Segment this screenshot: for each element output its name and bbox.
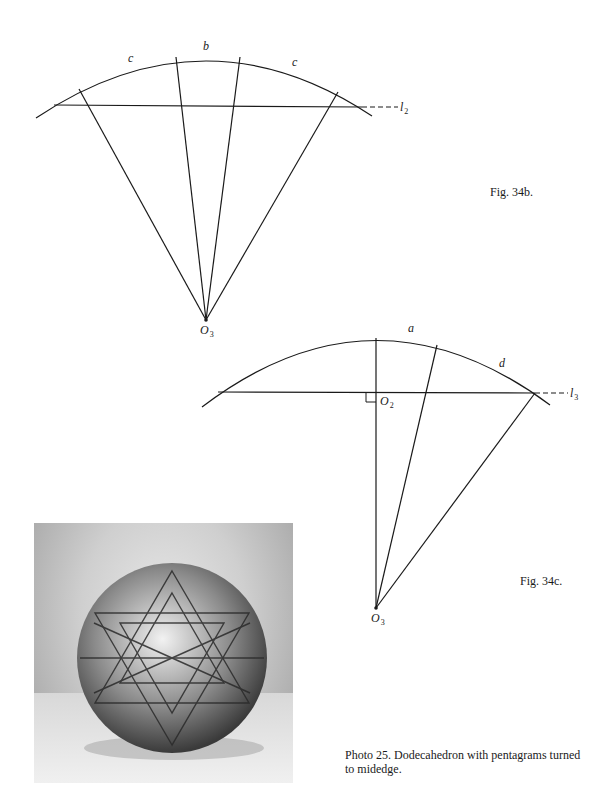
fig34b-arc-label-c-right: c xyxy=(292,56,297,68)
fig34c-arc-label-d: d xyxy=(499,357,505,369)
fig34b-arc-label-b: b xyxy=(203,40,209,52)
fig34b-line-label: l2 xyxy=(400,101,408,116)
fig34b-line-l2 xyxy=(54,105,362,107)
photo-caption-line1: Photo 25. Dodecahedron with pentagrams t… xyxy=(345,748,580,762)
fig34c-arc-label-a: a xyxy=(408,322,414,334)
fig34c-foot-label: O2 xyxy=(380,395,394,410)
photo-caption-line2: to midedge. xyxy=(345,762,402,776)
fig34c-line-label: l3 xyxy=(570,387,578,402)
fig34b-caption: Fig. 34b. xyxy=(490,185,533,199)
fig34b-arc-label-c-left: c xyxy=(128,52,133,64)
fig34b-arc xyxy=(36,61,372,118)
dodecahedron-photo xyxy=(34,523,293,783)
fig34c-caption: Fig. 34c. xyxy=(520,574,562,588)
fig34b-center-label: O3 xyxy=(200,324,214,339)
dodecahedron-model-image xyxy=(34,523,293,783)
fig34c-center-label: O3 xyxy=(371,612,385,627)
